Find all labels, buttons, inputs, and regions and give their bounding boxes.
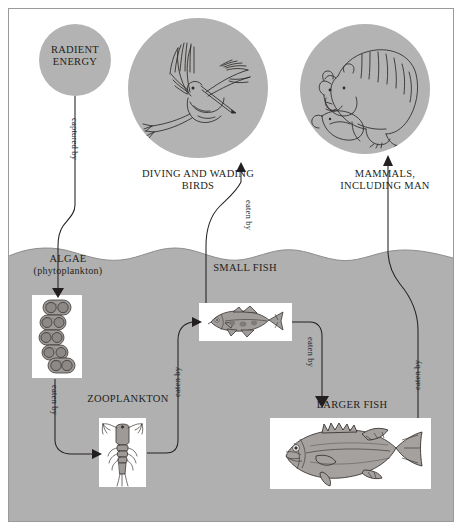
radiant-energy-label-line1: RADIENT [39, 44, 111, 56]
diving-wading-birds-label-line1: DIVING AND WADING [118, 168, 278, 180]
mammals-label: MAMMALS, INCLUDING MAN [315, 168, 455, 192]
mammals-label-line2: INCLUDING MAN [315, 180, 455, 192]
algae-illustration-plate [32, 295, 82, 378]
edge-label-zoo-to-smallfish-text: eaten by [172, 367, 182, 397]
small-fish-label: SMALL FISH [175, 262, 315, 274]
diving-wading-birds-label-line2: BIRDS [118, 180, 278, 192]
edge-label-smallfish-to-birds: eaten by [244, 200, 254, 230]
algae-label-line2: (phytoplankton) [8, 265, 128, 276]
food-chain-diagram: RADIENT ENERGY [0, 0, 464, 531]
largemouth-bass-icon [270, 418, 431, 489]
edge-label-larger-to-mammals: eaten by [412, 360, 422, 390]
edge-label-captured-by: captured by [70, 118, 80, 160]
zooplankton-label-text: ZOOPLANKTON [87, 393, 168, 404]
algae-label: ALGAE (phytoplankton) [8, 253, 128, 276]
small-fish-illustration-plate [199, 303, 292, 341]
radiant-energy-label: RADIENT ENERGY [39, 44, 111, 68]
radiant-energy-label-line2: ENERGY [39, 56, 111, 68]
small-fish-label-text: SMALL FISH [213, 262, 277, 273]
diving-wading-birds-label: DIVING AND WADING BIRDS [118, 168, 278, 192]
edge-label-larger-to-mammals-text: eaten by [412, 360, 422, 390]
edge-label-captured-by-text: captured by [70, 118, 80, 160]
edge-label-smallfish-to-larger: eaten by [306, 337, 316, 367]
mammals-circle [300, 24, 430, 154]
algae-cell-chain-icon [32, 295, 82, 378]
copepod-icon [99, 418, 146, 487]
bear-with-fish-icon [300, 24, 430, 154]
edge-label-algae-to-zoo: eaten by [50, 385, 60, 415]
edge-label-zoo-to-smallfish: eaten by [172, 367, 182, 397]
larger-fish-label-text: LARGER FISH [317, 399, 388, 410]
edge-label-smallfish-to-birds-text: eaten by [244, 200, 254, 230]
edge-label-smallfish-to-larger-text: eaten by [306, 337, 316, 367]
zooplankton-illustration-plate [99, 418, 146, 487]
mammals-label-line1: MAMMALS, [315, 168, 455, 180]
small-fish-icon [199, 303, 292, 341]
heron-in-flight-icon [128, 18, 268, 158]
algae-label-line1: ALGAE [8, 253, 128, 265]
edge-label-algae-to-zoo-text: eaten by [50, 385, 60, 415]
larger-fish-illustration-plate [270, 418, 431, 489]
diving-wading-birds-circle [128, 18, 268, 158]
larger-fish-label: LARGER FISH [282, 399, 422, 411]
